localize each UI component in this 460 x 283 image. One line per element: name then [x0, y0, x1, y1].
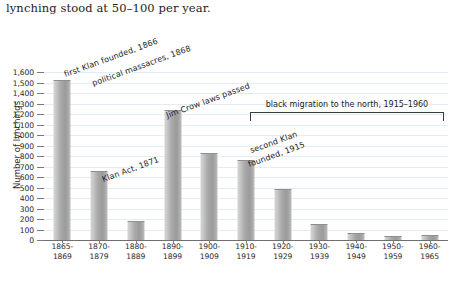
y-axis-tick-mark: [37, 114, 44, 115]
y-axis-tick-group: 01002003004005006007008009001,0001,1001,…: [0, 72, 44, 240]
y-axis-tick-mark: [37, 198, 44, 199]
x-axis-tick-label-line1: 1940-: [338, 242, 375, 252]
x-axis-tick-label-line2: 1959: [375, 252, 412, 262]
bracket-shape: [250, 112, 444, 121]
y-axis-tick-label: 1,200: [13, 110, 34, 119]
y-axis-tick-label: 800: [20, 152, 34, 161]
x-axis-tick-label: 1880-1889: [117, 242, 154, 262]
x-axis-tick-label-line2: 1965: [411, 252, 448, 262]
bar-slot: [44, 72, 81, 240]
x-axis-tick-label-line1: 1870-: [81, 242, 118, 252]
y-axis-tick-label: 200: [20, 215, 34, 224]
x-axis-tick-label-line1: 1900-: [191, 242, 228, 252]
y-axis-tick-mark: [37, 167, 44, 168]
x-axis-tick-label-line1: 1960-: [411, 242, 448, 252]
x-axis-tick-label-line1: 1950-: [375, 242, 412, 252]
x-axis-tick-label-line1: 1890-: [154, 242, 191, 252]
y-axis-tick-label: 1,400: [13, 89, 34, 98]
x-axis-tick-label-line1: 1880-: [117, 242, 154, 252]
y-axis-tick-mark: [37, 72, 44, 73]
bar-slot: [154, 72, 191, 240]
y-axis-tick-label: 0: [29, 236, 34, 245]
y-axis-tick-mark: [37, 83, 44, 84]
bar: [201, 153, 218, 240]
x-axis-tick-label-line2: 1919: [228, 252, 265, 262]
bracket-label: black migration to the north, 1915–1960: [250, 100, 444, 109]
bar-slot: [81, 72, 118, 240]
x-axis-tick-label-line2: 1899: [154, 252, 191, 262]
y-axis-tick-label: 400: [20, 194, 34, 203]
bar: [311, 224, 328, 240]
x-axis-tick-label: 1865-1869: [44, 242, 81, 262]
bar-slot: [375, 72, 412, 240]
x-axis-tick-label-line2: 1879: [81, 252, 118, 262]
y-axis-tick-label: 700: [20, 162, 34, 171]
y-axis-tick-label: 1,100: [13, 120, 34, 129]
x-axis-tick-label-line1: 1865-: [44, 242, 81, 252]
y-axis-tick-label: 300: [20, 204, 34, 213]
x-axis-tick-label: 1960-1965: [411, 242, 448, 262]
y-axis-tick-label: 500: [20, 183, 34, 192]
x-axis-tick-label: 1870-1879: [81, 242, 118, 262]
y-axis-tick-label: 100: [20, 225, 34, 234]
y-axis-tick-label: 900: [20, 141, 34, 150]
x-axis-tick-label-line1: 1920-: [264, 242, 301, 252]
x-axis-tick-label-line2: 1949: [338, 252, 375, 262]
y-axis-tick-mark: [37, 104, 44, 105]
y-axis-tick-label: 600: [20, 173, 34, 182]
x-axis-tick-group: 1865-18691870-18791880-18891890-18991900…: [44, 242, 448, 272]
x-axis-tick-label: 1910-1919: [228, 242, 265, 262]
bar: [54, 80, 71, 240]
y-axis-tick-mark: [37, 156, 44, 157]
x-axis-tick-label-line2: 1869: [44, 252, 81, 262]
y-axis-tick-label: 1,600: [13, 68, 34, 77]
bar-slot: [301, 72, 338, 240]
bar-slot: [117, 72, 154, 240]
x-axis-tick-label: 1950-1959: [375, 242, 412, 262]
x-axis-tick-label-line2: 1889: [117, 252, 154, 262]
bar: [348, 233, 365, 240]
bar: [164, 110, 181, 240]
y-axis-tick-mark: [37, 188, 44, 189]
y-axis-tick-mark: [37, 125, 44, 126]
bar: [237, 160, 254, 240]
x-axis-tick-label: 1920-1929: [264, 242, 301, 262]
y-axis-tick-mark: [37, 93, 44, 94]
y-axis-tick-mark: [37, 146, 44, 147]
x-axis-tick-label: 1940-1949: [338, 242, 375, 262]
y-axis-tick-label: 1,000: [13, 131, 34, 140]
x-axis-tick-label-line1: 1930-: [301, 242, 338, 252]
y-axis-tick-mark: [37, 177, 44, 178]
bar: [127, 221, 144, 240]
y-axis-tick-mark: [37, 209, 44, 210]
lynchings-bar-chart-figure: Number of lynchings 01002003004005006007…: [0, 22, 460, 283]
x-axis-tick-label-line2: 1909: [191, 252, 228, 262]
y-axis-tick-mark: [37, 230, 44, 231]
body-paragraph-text: lynching stood at 50–100 per year.: [6, 1, 211, 15]
plot-area: [44, 72, 448, 240]
y-axis-tick-label: 1,300: [13, 99, 34, 108]
x-axis-tick-label-line1: 1910-: [228, 242, 265, 252]
x-axis-tick-label-line2: 1929: [264, 252, 301, 262]
bar-series: [44, 72, 448, 240]
y-axis-tick-mark: [37, 219, 44, 220]
bar: [274, 189, 291, 240]
x-axis-tick-label: 1900-1909: [191, 242, 228, 262]
y-axis-tick-mark: [37, 240, 44, 241]
y-axis-tick-mark: [37, 135, 44, 136]
x-axis-tick-label-line2: 1939: [301, 252, 338, 262]
bar-slot: [411, 72, 448, 240]
bar-slot: [338, 72, 375, 240]
y-axis-tick-label: 1,500: [13, 78, 34, 87]
x-axis-tick-label: 1930-1939: [301, 242, 338, 262]
x-axis-tick-label: 1890-1899: [154, 242, 191, 262]
